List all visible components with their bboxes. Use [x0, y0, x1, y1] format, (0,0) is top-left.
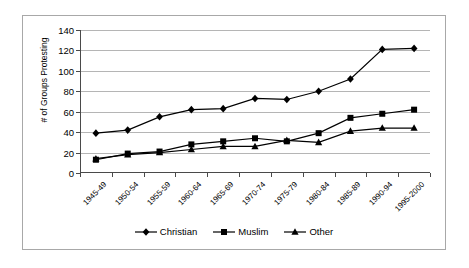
- plot-area: 0204060801001201401945-491950-541955-591…: [80, 30, 430, 173]
- y-tick-label: 100: [58, 65, 74, 76]
- y-axis-title: # of Groups Protesting: [36, 15, 52, 145]
- x-tick-label: 1980-84: [304, 180, 331, 207]
- x-tick-label: 1985-89: [336, 180, 363, 207]
- chart-figure: # of Groups Protesting 02040608010012014…: [22, 15, 446, 250]
- x-tick-mark: [303, 173, 304, 177]
- y-tick-mark: [76, 153, 80, 154]
- legend-marker-diamond-icon: [135, 227, 157, 237]
- series-christian: [93, 45, 418, 137]
- y-tick-mark: [76, 50, 80, 51]
- y-tick-label: 140: [58, 25, 74, 36]
- x-tick-mark: [430, 173, 431, 177]
- series-other: [92, 124, 417, 161]
- x-tick-label: 1955-59: [145, 180, 172, 207]
- legend-entry-other[interactable]: Other: [284, 226, 333, 237]
- x-tick-label: 1975-79: [272, 180, 299, 207]
- y-tick-mark: [76, 112, 80, 113]
- y-tick-mark: [76, 91, 80, 92]
- y-tick-label: 20: [63, 147, 74, 158]
- x-tick-label: 1965-69: [208, 180, 235, 207]
- x-tick-mark: [144, 173, 145, 177]
- y-tick-label: 40: [63, 127, 74, 138]
- y-tick-mark: [76, 30, 80, 31]
- x-tick-mark: [398, 173, 399, 177]
- x-tick-label: 1950-54: [113, 180, 140, 207]
- x-tick-label: 1960-64: [177, 180, 204, 207]
- legend-entry-christian[interactable]: Christian: [135, 226, 198, 237]
- y-tick-mark: [76, 71, 80, 72]
- legend-marker-triangle-icon: [284, 227, 306, 237]
- legend-label: Muslim: [238, 226, 268, 237]
- y-tick-label: 120: [58, 45, 74, 56]
- x-tick-mark: [112, 173, 113, 177]
- x-tick-mark: [175, 173, 176, 177]
- x-tick-mark: [366, 173, 367, 177]
- legend-marker-square-icon: [213, 227, 235, 237]
- x-tick-label: 1970-74: [240, 180, 267, 207]
- x-tick-mark: [335, 173, 336, 177]
- y-tick-label: 0: [69, 168, 74, 179]
- y-tick-label: 80: [63, 86, 74, 97]
- legend-label: Other: [309, 226, 333, 237]
- x-tick-label: 1995-2000: [393, 180, 426, 213]
- x-tick-label: 1945-49: [81, 180, 108, 207]
- legend-entry-muslim[interactable]: Muslim: [213, 226, 268, 237]
- series-layer: [80, 30, 430, 173]
- y-tick-label: 60: [63, 106, 74, 117]
- x-tick-mark: [239, 173, 240, 177]
- chart-legend: ChristianMuslimOther: [23, 226, 445, 237]
- x-tick-label: 1990-94: [368, 180, 395, 207]
- x-tick-mark: [271, 173, 272, 177]
- x-tick-mark: [207, 173, 208, 177]
- y-tick-mark: [76, 132, 80, 133]
- legend-label: Christian: [160, 226, 198, 237]
- x-tick-mark: [80, 173, 81, 177]
